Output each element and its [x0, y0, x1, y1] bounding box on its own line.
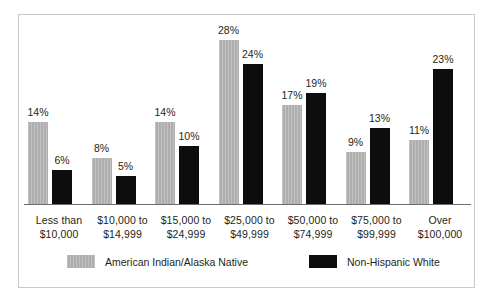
chart-legend: American Indian/Alaska Native Non-Hispan…: [19, 251, 474, 279]
bar-white-4: [306, 93, 326, 205]
bar-value-label-white-5: 13%: [357, 112, 403, 124]
bar-native-6: [409, 140, 429, 205]
chart-frame: 14%6%8%5%14%10%28%24%17%19%9%13%11%23% L…: [18, 14, 475, 288]
x-tick-label-6: Over$100,000: [399, 213, 481, 241]
bar-value-label-white-2: 10%: [166, 130, 212, 142]
x-tick-line-1: $10,000 to: [97, 214, 148, 226]
bar-value-label-native-1: 8%: [79, 142, 125, 154]
x-axis-tick-labels: Less than$10,000$10,000 to$14,999$15,000…: [19, 207, 474, 255]
x-tick-line-2: $100,000: [399, 227, 481, 241]
grouped-bar-chart: 14%6%8%5%14%10%28%24%17%19%9%13%11%23% L…: [0, 0, 492, 303]
x-tick-line-1: Over: [428, 214, 451, 226]
bar-white-3: [243, 64, 263, 205]
bar-white-2: [179, 146, 199, 205]
bar-value-label-white-6: 23%: [420, 53, 466, 65]
bar-native-5: [346, 152, 366, 205]
bar-value-label-white-0: 6%: [39, 154, 85, 166]
bar-value-label-white-4: 19%: [293, 77, 339, 89]
x-axis-line: [24, 204, 471, 205]
bar-value-label-native-2: 14%: [142, 106, 188, 118]
bar-white-6: [433, 69, 453, 205]
legend-item-non-hispanic-white: Non-Hispanic White: [309, 255, 440, 268]
bar-native-4: [282, 105, 302, 205]
bar-value-label-white-3: 24%: [230, 48, 276, 60]
legend-swatch-icon-white: [309, 255, 337, 268]
x-tick-line-1: $15,000 to: [161, 214, 212, 226]
bar-value-label-native-0: 14%: [15, 106, 61, 118]
bar-white-0: [52, 170, 72, 205]
x-tick-line-1: $50,000 to: [288, 214, 339, 226]
bar-value-label-white-1: 5%: [103, 160, 149, 172]
plot-area: 14%6%8%5%14%10%28%24%17%19%9%13%11%23%: [19, 15, 474, 205]
x-tick-line-1: $25,000 to: [224, 214, 275, 226]
x-tick-line-1: $75,000 to: [351, 214, 402, 226]
bar-native-3: [219, 40, 239, 205]
bar-white-5: [370, 128, 390, 205]
legend-swatch-icon-native: [67, 255, 95, 268]
bar-value-label-native-3: 28%: [206, 24, 252, 36]
legend-label-native: American Indian/Alaska Native: [105, 256, 248, 268]
bar-white-1: [116, 176, 136, 205]
legend-label-white: Non-Hispanic White: [347, 256, 440, 268]
legend-item-american-indian-alaska-native: American Indian/Alaska Native: [67, 255, 248, 268]
x-tick-line-1: Less than: [36, 214, 82, 226]
